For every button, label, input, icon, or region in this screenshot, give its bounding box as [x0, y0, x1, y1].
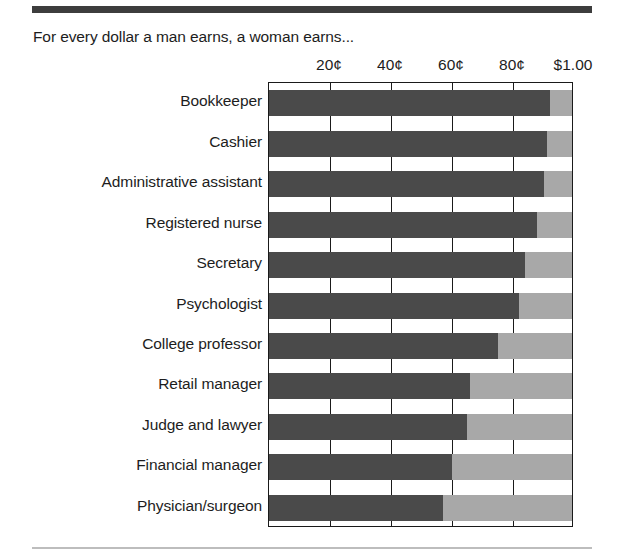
x-tick-label-20: 20¢	[316, 56, 342, 74]
x-tick-label-60: 60¢	[438, 56, 464, 74]
bar-row	[269, 293, 573, 319]
bar-series-container	[269, 83, 572, 526]
bar-segment-earned	[269, 333, 498, 359]
chart-caption: For every dollar a man earns, a woman ea…	[33, 28, 354, 46]
bar-row	[269, 90, 573, 116]
bar-chart: 20¢40¢60¢80¢$1.00 BookkeeperCashierAdmin…	[0, 56, 618, 82]
bar-segment-earned	[269, 373, 470, 399]
bar-segment-earned	[269, 212, 537, 238]
bar-row	[269, 131, 573, 157]
bar-row	[269, 333, 573, 359]
bar-segment-gap	[550, 90, 573, 116]
bar-segment-gap	[452, 454, 573, 480]
bar-segment-earned	[269, 414, 467, 440]
bar-segment-gap	[443, 495, 573, 521]
category-label: Registered nurse	[0, 214, 262, 232]
bar-segment-gap	[544, 171, 574, 197]
plot-area	[268, 82, 573, 527]
category-label: Retail manager	[0, 375, 262, 393]
bar-segment-gap	[498, 333, 573, 359]
x-tick-label-100: $1.00	[554, 56, 593, 74]
category-label: Psychologist	[0, 295, 262, 313]
bar-segment-earned	[269, 90, 550, 116]
x-tick-label-80: 80¢	[499, 56, 525, 74]
bar-segment-earned	[269, 252, 525, 278]
top-divider-rule	[32, 6, 592, 13]
bar-row	[269, 454, 573, 480]
bar-row	[269, 495, 573, 521]
bar-segment-earned	[269, 171, 544, 197]
bar-row	[269, 212, 573, 238]
bar-segment-gap	[537, 212, 573, 238]
category-label: Bookkeeper	[0, 92, 262, 110]
bar-segment-gap	[470, 373, 573, 399]
category-label: Financial manager	[0, 456, 262, 474]
x-tick-label-40: 40¢	[377, 56, 403, 74]
category-label: Judge and lawyer	[0, 416, 262, 434]
bar-segment-earned	[269, 293, 519, 319]
bar-segment-gap	[519, 293, 573, 319]
bar-segment-gap	[525, 252, 573, 278]
bar-segment-gap	[547, 131, 573, 157]
bottom-divider-rule	[32, 547, 592, 549]
bar-segment-earned	[269, 495, 443, 521]
bar-row	[269, 414, 573, 440]
bar-segment-gap	[467, 414, 573, 440]
x-axis-tick-labels: 20¢40¢60¢80¢$1.00	[0, 56, 618, 82]
category-label: College professor	[0, 335, 262, 353]
bar-row	[269, 252, 573, 278]
category-label: Administrative assistant	[0, 173, 262, 191]
bar-segment-earned	[269, 131, 547, 157]
bar-row	[269, 373, 573, 399]
category-label: Physician/surgeon	[0, 497, 262, 515]
bar-row	[269, 171, 573, 197]
bar-segment-earned	[269, 454, 452, 480]
category-label: Cashier	[0, 133, 262, 151]
figure-root: For every dollar a man earns, a woman ea…	[0, 0, 618, 557]
category-label: Secretary	[0, 254, 262, 272]
